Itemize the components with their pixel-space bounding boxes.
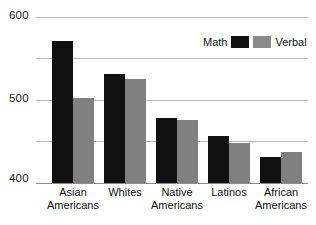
category-line-1: Asian [59, 186, 87, 198]
bar-verbal-native-americans [177, 120, 198, 183]
bar-math-latinos [208, 136, 229, 183]
bar-verbal-latinos [229, 143, 250, 183]
legend-label-verbal: Verbal [275, 37, 306, 48]
legend-swatch-verbal-icon [253, 36, 271, 48]
category-line-1: African [264, 186, 298, 198]
category-line-1: Native [161, 186, 192, 198]
legend-label-math: Math [203, 37, 227, 48]
bar-math-whites [104, 74, 125, 183]
bar-math-native-americans [156, 118, 177, 183]
legend-swatch-math-icon [231, 36, 249, 48]
bar-verbal-asian-americans [73, 98, 94, 183]
category-line-2: Americans [28, 199, 118, 212]
category-line-2: Americans [236, 199, 316, 212]
bar-math-african-americans [260, 157, 281, 183]
bar-math-asian-americans [52, 41, 73, 183]
bar-verbal-african-americans [281, 152, 302, 183]
category-line-2: Americans [132, 199, 222, 212]
chart-legend: Math Verbal [203, 36, 307, 48]
bar-chart: 600 500 400 Asian Americans Whites Nativ… [0, 0, 316, 225]
bar-verbal-whites [125, 79, 146, 183]
category-label-african-americans: African Americans [236, 186, 316, 211]
